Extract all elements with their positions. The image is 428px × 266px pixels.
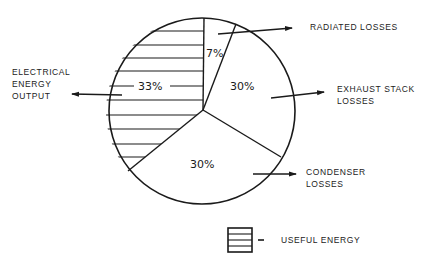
pct-exhaust: 30% bbox=[230, 80, 254, 93]
slice-boundaries bbox=[128, 18, 281, 171]
label-line: EXHAUST STACK bbox=[337, 83, 415, 95]
boundary-radiated bbox=[203, 24, 236, 110]
label-condenser-losses: CONDENSER LOSSES bbox=[306, 166, 366, 190]
label-line: CONDENSER bbox=[306, 166, 366, 178]
arrow-electrical-icon bbox=[72, 94, 122, 95]
useful-energy-hatch bbox=[100, 31, 210, 157]
label-radiated-losses: RADIATED LOSSES bbox=[310, 21, 398, 33]
pie-chart: 33% 7% 30% 30% bbox=[0, 0, 428, 266]
arrow-exhaust-icon bbox=[271, 92, 324, 98]
label-line: ELECTRICAL bbox=[12, 66, 70, 78]
boundary-top bbox=[203, 18, 204, 110]
legend-hatch-swatch-icon bbox=[228, 228, 264, 252]
label-line: LOSSES bbox=[306, 178, 366, 190]
label-line: ENERGY bbox=[12, 78, 70, 90]
arrow-radiated-icon bbox=[218, 28, 292, 34]
pct-radiated: 7% bbox=[206, 47, 223, 60]
boundary-exhaust-condenser bbox=[203, 110, 281, 157]
label-line: OUTPUT bbox=[12, 90, 70, 102]
label-line: LOSSES bbox=[337, 95, 415, 107]
pct-electrical: 33% bbox=[138, 80, 162, 93]
label-exhaust-stack-losses: EXHAUST STACK LOSSES bbox=[337, 83, 415, 107]
label-line: RADIATED LOSSES bbox=[310, 21, 398, 33]
legend-useful-energy: USEFUL ENERGY bbox=[281, 234, 360, 246]
pct-condenser: 30% bbox=[190, 158, 214, 171]
label-electrical-energy-output: ELECTRICAL ENERGY OUTPUT bbox=[12, 66, 70, 102]
